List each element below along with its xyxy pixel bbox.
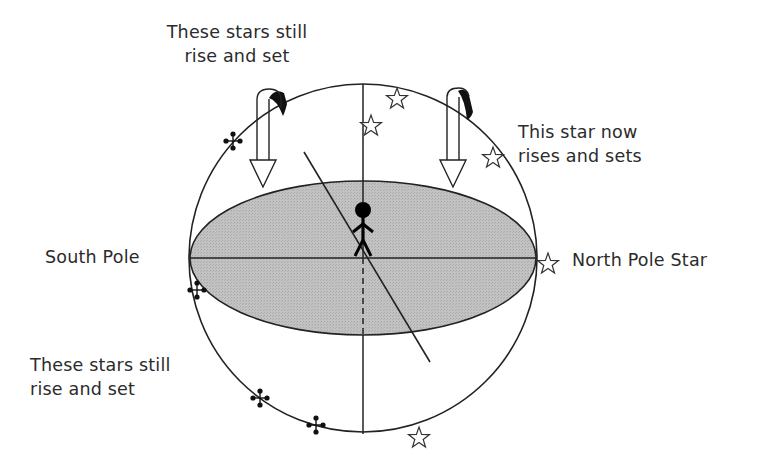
label-top-left-line1: These stars still bbox=[152, 20, 322, 44]
rotation-arrow-left-icon bbox=[250, 89, 287, 187]
label-south-pole: South Pole bbox=[45, 245, 140, 269]
label-north-pole-star: North Pole Star bbox=[572, 248, 707, 272]
label-bottom-left-line1: These stars still bbox=[30, 353, 171, 377]
star-cluster-icon bbox=[250, 388, 269, 407]
label-top-right: This star now rises and sets bbox=[518, 120, 642, 168]
open-star-icon bbox=[409, 427, 430, 447]
celestial-sphere-diagram bbox=[0, 0, 764, 476]
open-star-icon bbox=[387, 88, 408, 108]
star-cluster-icon bbox=[306, 415, 325, 434]
north-pole-star-icon bbox=[538, 253, 559, 273]
label-bottom-left-line2: rise and set bbox=[30, 377, 171, 401]
label-top-right-line2: rises and sets bbox=[518, 144, 642, 168]
label-top-left-line2: rise and set bbox=[152, 44, 322, 68]
label-top-left: These stars still rise and set bbox=[152, 20, 322, 68]
label-top-right-line1: This star now bbox=[518, 120, 642, 144]
rotation-arrow-right-icon bbox=[440, 88, 473, 187]
label-bottom-left: These stars still rise and set bbox=[30, 353, 171, 401]
